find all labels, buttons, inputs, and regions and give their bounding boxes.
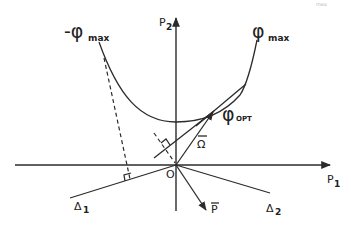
- svg-text:-φ: -φ: [64, 20, 83, 42]
- p2-axis-label: P 2: [159, 16, 172, 32]
- right-angle-mark-upper: [161, 139, 170, 145]
- phi-opt-label: φ OPT: [222, 103, 252, 125]
- svg-text:1: 1: [334, 179, 340, 189]
- svg-text:2: 2: [166, 22, 172, 32]
- p-vector: [176, 165, 206, 210]
- svg-text:max: max: [268, 33, 289, 43]
- svg-text:OPT: OPT: [236, 115, 252, 123]
- svg-text:Δ: Δ: [266, 202, 274, 215]
- svg-text:Δ: Δ: [74, 200, 82, 213]
- svg-text:max: max: [88, 33, 109, 43]
- p1-axis-label: P 1: [327, 173, 340, 189]
- svg-text:φ: φ: [252, 20, 265, 42]
- svg-text:1: 1: [83, 205, 89, 215]
- delta2-line: [176, 165, 270, 193]
- delta1-line: [70, 165, 176, 198]
- svg-text:P: P: [327, 173, 334, 186]
- phi-max-label: φ max: [252, 20, 289, 43]
- p-vector-label: P: [211, 203, 218, 216]
- svg-text:P: P: [159, 16, 166, 29]
- perpendicular-dash: [154, 133, 175, 163]
- neg-phi-max-label: -φ max: [64, 20, 109, 43]
- delta2-label: Δ 2: [266, 202, 281, 217]
- omega-label: Ω: [197, 138, 205, 151]
- corner-fragment: max: [316, 1, 327, 7]
- delta1-label: Δ 1: [74, 200, 89, 215]
- svg-text:2: 2: [275, 207, 281, 217]
- origin-label: O: [166, 168, 175, 181]
- phase-diagram: max P 2 P 1 O Ω P Δ 1 Δ 2 -φ max: [0, 0, 351, 226]
- svg-text:φ: φ: [222, 103, 235, 125]
- dashed-projection: [104, 58, 130, 179]
